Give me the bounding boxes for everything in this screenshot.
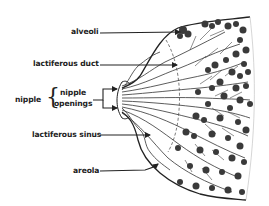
alveoli-leader — [100, 32, 180, 33]
nipple-openings-leader — [93, 89, 117, 100]
label-nipple-openings-line2: openings — [54, 100, 92, 108]
breast-outline — [122, 17, 254, 200]
breast-anatomy-diagram: alveoli lactiferous duct nipple { nipple… — [0, 0, 269, 206]
label-lactiferous-duct: lactiferous duct — [33, 60, 99, 68]
label-nipple: nipple — [15, 96, 41, 104]
label-areola: areola — [73, 167, 99, 175]
areola-leader — [100, 164, 158, 171]
areola-boundary-dashed — [166, 40, 180, 152]
alveoli-clusters — [175, 19, 253, 195]
label-lactiferous-sinus: lactiferous sinus — [32, 131, 101, 139]
label-nipple-openings-line1: nipple — [60, 89, 86, 97]
lactiferous-ducts — [122, 32, 250, 192]
label-alveoli: alveoli — [71, 28, 99, 36]
